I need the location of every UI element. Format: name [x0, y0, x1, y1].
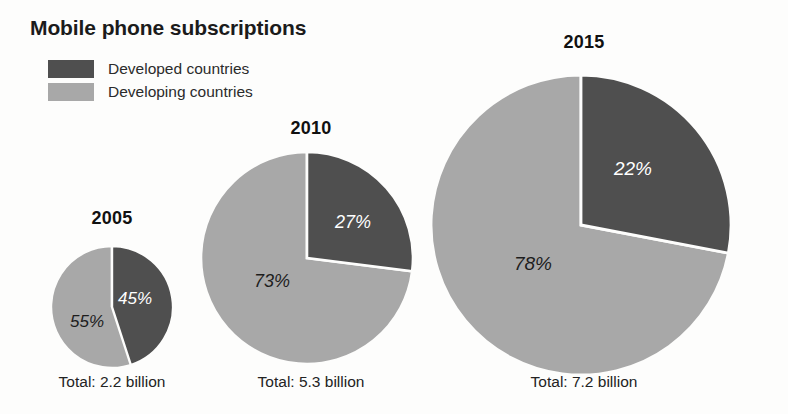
- pie-group-2005: 2005 45% 55% Total: 2.2 billion: [22, 208, 202, 408]
- legend-label-developing: Developing countries: [108, 83, 253, 101]
- pie-group-2015: 2015 22% 78% Total: 7.2 billion: [428, 32, 740, 408]
- pie-value-label-developing-2015: 78%: [514, 253, 552, 274]
- legend-swatch-icon-developed: [48, 60, 94, 78]
- pie-year-label-2010: 2010: [198, 118, 424, 139]
- page-title: Mobile phone subscriptions: [30, 16, 306, 40]
- pie-total-label-2015: Total: 7.2 billion: [428, 373, 740, 391]
- legend: Developed countries Developing countries: [48, 57, 253, 103]
- pie-value-label-developing-2010: 73%: [254, 271, 290, 291]
- pie-total-label-2005: Total: 2.2 billion: [22, 373, 202, 391]
- chart-canvas: Mobile phone subscriptions Developed cou…: [0, 0, 788, 414]
- pie-chart-2005: 45% 55%: [50, 245, 174, 369]
- legend-label-developed: Developed countries: [108, 60, 249, 78]
- legend-swatch-icon-developing: [48, 83, 94, 101]
- legend-item-developing: Developing countries: [48, 80, 253, 103]
- pie-value-label-developed-2005: 45%: [118, 289, 152, 308]
- pie-chart-2010: 27% 73%: [200, 151, 414, 365]
- pie-slice-developed-2015: [581, 75, 731, 253]
- legend-item-developed: Developed countries: [48, 57, 253, 80]
- pie-value-label-developed-2015: 22%: [613, 158, 652, 179]
- pie-total-label-2010: Total: 5.3 billion: [198, 373, 424, 391]
- pie-year-label-2005: 2005: [22, 208, 202, 229]
- pie-chart-2015: 22% 78%: [430, 74, 732, 376]
- pie-group-2010: 2010 27% 73% Total: 5.3 billion: [198, 118, 424, 408]
- pie-value-label-developed-2010: 27%: [334, 212, 371, 232]
- pie-value-label-developing-2005: 55%: [70, 312, 104, 331]
- pie-year-label-2015: 2015: [428, 32, 740, 53]
